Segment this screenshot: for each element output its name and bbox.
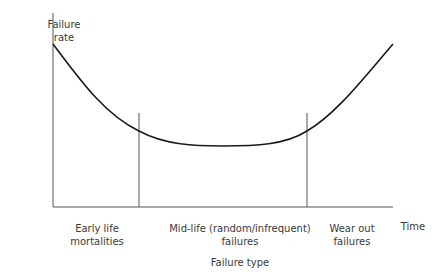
region-label-early-life: Early life mortalities — [62, 222, 132, 248]
x-axis-label: Time — [393, 220, 433, 233]
region-label-wear-out: Wear out failures — [317, 222, 387, 248]
region-label-mid-life-line2: failures — [160, 235, 320, 248]
y-axis-label-line2: rate — [40, 31, 88, 44]
region-label-wear-out-line1: Wear out — [317, 222, 387, 235]
region-label-mid-life-line1: Mid-life (random/infrequent) — [160, 222, 320, 235]
region-label-wear-out-line2: failures — [317, 235, 387, 248]
region-label-early-life-line2: mortalities — [62, 235, 132, 248]
region-label-mid-life: Mid-life (random/infrequent) failures — [160, 222, 320, 248]
region-label-early-life-line1: Early life — [62, 222, 132, 235]
y-axis-label-line1: Failure — [40, 18, 88, 31]
y-axis-label: Failure rate — [40, 18, 88, 44]
failure-rate-curve — [53, 44, 393, 146]
category-axis-title: Failure type — [190, 256, 290, 269]
